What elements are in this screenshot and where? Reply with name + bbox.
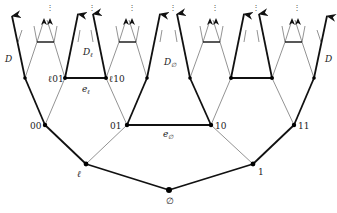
small-arrows [41,18,301,25]
label-l01: ℓ01 [48,74,64,84]
node-l [84,162,89,167]
label-l: ℓ [77,169,81,179]
label-region-D-l: Dℓ [82,47,93,58]
svg-text:⋮: ⋮ [252,3,260,12]
svg-text:⋮: ⋮ [128,3,136,12]
label-edge-e-empty: e∅ [163,129,174,140]
label-root: ∅ [166,196,174,206]
node-01 [125,123,129,127]
binary-tree-diagram: ⋮ ⋮ ⋮ ⋮ ⋮ ⋮ ⋮ ∅ ℓ 1 00 01 10 11 ℓ01 ℓ10 … [0,0,337,213]
label-10: 10 [215,121,227,131]
svg-text:⋮: ⋮ [293,3,301,12]
node-10 [209,123,213,127]
svg-text:⋮: ⋮ [169,3,177,12]
label-region-D-empty: D∅ [163,57,177,68]
label-edge-e-l: eℓ [82,84,90,95]
node-1 [251,162,256,167]
node-11 [292,123,296,127]
svg-text:⋮: ⋮ [88,3,96,12]
label-l10: ℓ10 [109,74,125,84]
continuation-marks: ⋮ ⋮ ⋮ ⋮ ⋮ ⋮ ⋮ [46,3,301,12]
node-root [166,187,172,193]
node-l10 [104,76,108,80]
svg-text:⋮: ⋮ [211,3,219,12]
svg-text:⋮: ⋮ [46,3,54,12]
label-11: 11 [298,121,309,131]
thick-arrows [12,14,327,78]
label-00: 00 [30,121,42,131]
label-region-D-left: D [4,54,12,64]
label-region-D-right: D [324,54,332,64]
label-01: 01 [110,121,121,131]
label-1: 1 [258,167,264,177]
node-00 [43,123,47,127]
